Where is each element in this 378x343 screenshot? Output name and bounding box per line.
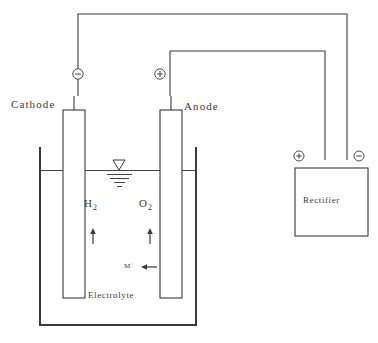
ion-label: M+	[124, 262, 133, 270]
negative-terminal-icon	[73, 69, 83, 79]
oxygen-label: O2	[139, 198, 152, 212]
anode-label: Anode	[184, 101, 219, 112]
cathode-electrode	[63, 96, 85, 298]
hydrogen-symbol: H	[84, 197, 93, 209]
rectifier-label: Rectifier	[303, 196, 340, 205]
electrolyte-label: Electrolyte	[88, 291, 134, 300]
cathode-to-rectifier-wire	[78, 14, 347, 160]
electrolysis-cell-diagram: Cathode Anode H2 O2 M+ Electrolyte Recti…	[0, 0, 378, 343]
oxygen-subscript: 2	[148, 203, 152, 212]
cathode-label: Cathode	[11, 99, 55, 110]
anode-electrode	[160, 96, 182, 298]
ion-charge-sign: +	[130, 261, 133, 266]
diagram-canvas	[0, 0, 378, 343]
hydrogen-flow-arrow	[90, 228, 96, 244]
hydrogen-label: H2	[84, 198, 97, 212]
water-level-icon	[107, 160, 132, 186]
oxygen-flow-arrow	[147, 228, 153, 244]
oxygen-symbol: O	[139, 197, 148, 209]
hydrogen-subscript: 2	[93, 203, 97, 212]
rectifier-negative-terminal-icon	[354, 151, 364, 161]
ion-migration-arrow	[141, 264, 157, 270]
positive-terminal-icon	[155, 69, 165, 79]
rectifier-positive-terminal-icon	[294, 151, 304, 161]
